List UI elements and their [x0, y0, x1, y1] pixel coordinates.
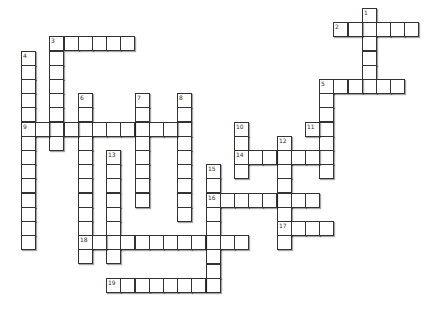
crossword-cell[interactable] [135, 150, 150, 165]
crossword-cell[interactable] [177, 136, 192, 151]
crossword-cell[interactable] [78, 249, 93, 264]
crossword-cell[interactable] [277, 235, 292, 250]
crossword-cell[interactable] [78, 122, 93, 137]
crossword-cell[interactable] [21, 221, 36, 236]
crossword-cell[interactable] [92, 122, 107, 137]
crossword-cell[interactable] [135, 136, 150, 151]
crossword-cell[interactable] [106, 221, 121, 236]
crossword-cell[interactable] [177, 122, 192, 137]
crossword-cell[interactable] [92, 36, 107, 51]
crossword-cell[interactable] [234, 136, 249, 151]
crossword-cell[interactable] [206, 264, 221, 279]
crossword-cell[interactable] [135, 122, 150, 137]
crossword-cell[interactable] [319, 150, 334, 165]
crossword-cell[interactable] [120, 278, 135, 293]
crossword-cell[interactable] [319, 122, 334, 137]
crossword-cell[interactable] [220, 235, 235, 250]
crossword-cell[interactable] [376, 22, 391, 37]
crossword-cell[interactable] [21, 93, 36, 108]
crossword-cell[interactable]: 10 [234, 122, 249, 137]
crossword-cell[interactable] [376, 79, 391, 94]
crossword-cell[interactable] [234, 164, 249, 179]
crossword-cell[interactable] [135, 178, 150, 193]
crossword-cell[interactable] [163, 122, 178, 137]
crossword-cell[interactable] [248, 193, 263, 208]
crossword-cell[interactable] [277, 164, 292, 179]
crossword-cell[interactable] [106, 36, 121, 51]
crossword-cell[interactable]: 8 [177, 93, 192, 108]
crossword-cell[interactable] [135, 193, 150, 208]
crossword-cell[interactable] [362, 65, 377, 80]
crossword-cell[interactable] [163, 235, 178, 250]
crossword-cell[interactable]: 15 [206, 164, 221, 179]
crossword-cell[interactable] [291, 150, 306, 165]
crossword-cell[interactable] [21, 79, 36, 94]
crossword-cell[interactable] [78, 221, 93, 236]
crossword-cell[interactable] [106, 249, 121, 264]
crossword-cell[interactable] [277, 178, 292, 193]
crossword-cell[interactable] [177, 278, 192, 293]
crossword-cell[interactable] [120, 122, 135, 137]
crossword-cell[interactable] [135, 235, 150, 250]
crossword-cell[interactable] [106, 164, 121, 179]
crossword-cell[interactable] [49, 79, 64, 94]
crossword-cell[interactable] [106, 178, 121, 193]
crossword-cell[interactable] [21, 65, 36, 80]
crossword-cell[interactable] [291, 221, 306, 236]
crossword-cell[interactable] [177, 164, 192, 179]
crossword-cell[interactable] [362, 79, 377, 94]
crossword-cell[interactable] [177, 107, 192, 122]
crossword-cell[interactable] [191, 235, 206, 250]
crossword-cell[interactable] [319, 107, 334, 122]
crossword-cell[interactable] [21, 193, 36, 208]
crossword-cell[interactable] [78, 164, 93, 179]
crossword-cell[interactable]: 1 [362, 8, 377, 23]
crossword-cell[interactable] [305, 221, 320, 236]
crossword-cell[interactable] [206, 221, 221, 236]
crossword-cell[interactable]: 6 [78, 93, 93, 108]
crossword-cell[interactable] [319, 93, 334, 108]
crossword-cell[interactable] [21, 178, 36, 193]
crossword-cell[interactable] [319, 136, 334, 151]
crossword-cell[interactable]: 18 [78, 235, 93, 250]
crossword-cell[interactable] [362, 36, 377, 51]
crossword-cell[interactable]: 9 [21, 122, 36, 137]
crossword-cell[interactable] [106, 235, 121, 250]
crossword-cell[interactable] [49, 122, 64, 137]
crossword-cell[interactable] [220, 193, 235, 208]
crossword-cell[interactable] [277, 193, 292, 208]
crossword-cell[interactable] [106, 207, 121, 222]
crossword-cell[interactable] [135, 278, 150, 293]
crossword-cell[interactable] [248, 150, 263, 165]
crossword-cell[interactable] [234, 235, 249, 250]
crossword-cell[interactable] [35, 122, 50, 137]
crossword-cell[interactable] [149, 122, 164, 137]
crossword-cell[interactable] [291, 193, 306, 208]
crossword-cell[interactable] [78, 150, 93, 165]
crossword-cell[interactable] [333, 79, 348, 94]
crossword-cell[interactable] [106, 193, 121, 208]
crossword-cell[interactable] [21, 235, 36, 250]
crossword-cell[interactable] [149, 235, 164, 250]
crossword-cell[interactable] [92, 235, 107, 250]
crossword-cell[interactable] [362, 22, 377, 37]
crossword-cell[interactable] [206, 278, 221, 293]
crossword-cell[interactable] [135, 164, 150, 179]
crossword-cell[interactable] [49, 51, 64, 66]
crossword-cell[interactable]: 2 [333, 22, 348, 37]
crossword-cell[interactable] [348, 22, 363, 37]
crossword-cell[interactable] [305, 150, 320, 165]
crossword-cell[interactable] [177, 150, 192, 165]
crossword-cell[interactable] [49, 107, 64, 122]
crossword-cell[interactable] [277, 150, 292, 165]
crossword-cell[interactable] [305, 193, 320, 208]
crossword-cell[interactable] [106, 122, 121, 137]
crossword-cell[interactable] [21, 150, 36, 165]
crossword-cell[interactable] [64, 36, 79, 51]
crossword-cell[interactable] [120, 36, 135, 51]
crossword-cell[interactable] [49, 65, 64, 80]
crossword-cell[interactable] [404, 22, 419, 37]
crossword-cell[interactable] [78, 178, 93, 193]
crossword-cell[interactable] [78, 36, 93, 51]
crossword-cell[interactable]: 17 [277, 221, 292, 236]
